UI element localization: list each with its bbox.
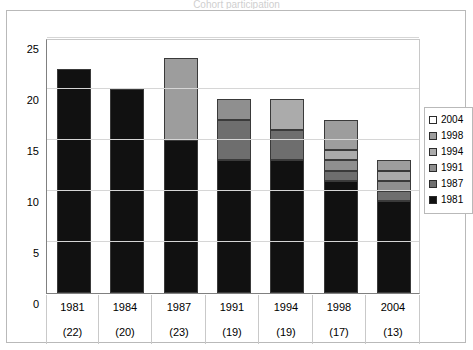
legend-swatch-icon [429, 148, 437, 156]
x-axis-category: 1991(19) [206, 295, 259, 344]
bar-segment [324, 150, 358, 160]
bar-segment [57, 69, 91, 293]
bar-segment [324, 120, 358, 151]
x-axis-tick-label: 1998 [313, 301, 365, 313]
y-axis-tick-label: 15 [13, 146, 39, 157]
legend-swatch-icon [429, 164, 437, 172]
bar-column [164, 38, 198, 293]
bar-column [377, 38, 411, 293]
legend-item[interactable]: 1994 [429, 144, 469, 160]
bar-segment [217, 160, 251, 293]
bar-segment [164, 140, 198, 293]
x-axis-category: 1981(22) [46, 295, 99, 344]
legend-label: 1998 [441, 131, 463, 141]
plot-area [46, 39, 420, 294]
legend-label: 2004 [441, 115, 463, 125]
x-axis-category: 1998(17) [313, 295, 366, 344]
bar-segment [217, 120, 251, 161]
bar-segment [377, 160, 411, 170]
x-axis-count-label: (17) [313, 326, 365, 338]
bars-layer [47, 40, 419, 293]
legend-swatch-icon [429, 196, 437, 204]
gridline [47, 139, 419, 140]
bar-segment [270, 160, 304, 293]
bar-segment [164, 58, 198, 140]
x-axis-tick-label: 1981 [47, 301, 98, 313]
bar-column [110, 38, 144, 293]
x-axis-tick-label: 2004 [367, 301, 419, 313]
bar-column [217, 38, 251, 293]
legend-label: 1994 [441, 147, 463, 157]
x-axis-count-label: (13) [367, 326, 419, 338]
x-axis-tick-label: 1987 [153, 301, 205, 313]
bar-segment [377, 171, 411, 181]
chart-legend: 200419981994199119871981 [424, 107, 473, 214]
x-axis-count-label: (22) [47, 326, 98, 338]
gridline [47, 88, 419, 89]
legend-label: 1987 [441, 179, 463, 189]
x-axis-tick-label: 1984 [99, 301, 151, 313]
x-axis-count-label: (20) [99, 326, 151, 338]
x-axis-count-label: (19) [206, 326, 258, 338]
gridline [47, 37, 419, 38]
bar-segment [324, 171, 358, 181]
bar-column [270, 38, 304, 293]
legend-item[interactable]: 1987 [429, 176, 469, 192]
y-axis-tick-label: 0 [13, 299, 39, 310]
x-axis-category: 1984(20) [99, 295, 152, 344]
chart-figure: Cohort participation 0510152025 1981(22)… [0, 0, 473, 350]
x-axis-category: 1987(23) [153, 295, 206, 344]
legend-swatch-icon [429, 180, 437, 188]
bar-segment [324, 160, 358, 170]
x-axis-labels: 1981(22)1984(20)1987(23)1991(19)1994(19)… [46, 295, 420, 344]
legend-label: 1991 [441, 163, 463, 173]
y-axis-tick-label: 25 [13, 44, 39, 55]
bar-segment [217, 99, 251, 119]
y-axis-tick-label: 20 [13, 95, 39, 106]
x-axis-category: 2004(13) [367, 295, 420, 344]
gridline [47, 190, 419, 191]
legend-item[interactable]: 2004 [429, 112, 469, 128]
legend-swatch-icon [429, 116, 437, 124]
x-axis-tick-label: 1991 [206, 301, 258, 313]
bar-segment [324, 181, 358, 293]
clipped-title: Cohort participation [0, 0, 473, 9]
legend-item[interactable]: 1998 [429, 128, 469, 144]
bar-segment [270, 130, 304, 161]
legend-item[interactable]: 1991 [429, 160, 469, 176]
y-axis-tick-label: 5 [13, 248, 39, 259]
legend-label: 1981 [441, 195, 463, 205]
bar-segment [377, 201, 411, 293]
bar-column [324, 38, 358, 293]
x-axis-count-label: (19) [260, 326, 312, 338]
legend-swatch-icon [429, 132, 437, 140]
y-axis-tick-label: 10 [13, 197, 39, 208]
gridline [47, 241, 419, 242]
chart-frame: 0510152025 1981(22)1984(20)1987(23)1991(… [6, 10, 466, 343]
bar-segment [110, 89, 144, 293]
bar-segment [377, 191, 411, 201]
x-axis-count-label: (23) [153, 326, 205, 338]
bar-column [57, 38, 91, 293]
x-axis-category: 1994(19) [260, 295, 313, 344]
x-axis-tick-label: 1994 [260, 301, 312, 313]
legend-item[interactable]: 1981 [429, 192, 469, 208]
bar-segment [270, 99, 304, 130]
